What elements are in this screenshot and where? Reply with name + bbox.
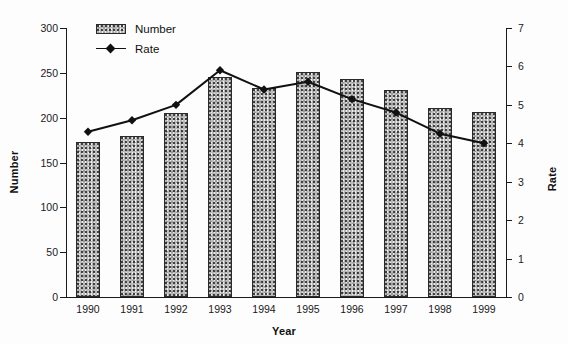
rate-marker-1991	[128, 116, 136, 124]
rate-marker-1996	[348, 95, 356, 103]
y-tick-right	[506, 28, 512, 29]
y-tick-label-right: 6	[518, 61, 524, 72]
x-axis-title-year: Year	[0, 325, 568, 337]
y-tick-label-left: 200	[14, 112, 58, 123]
y-tick-right	[506, 259, 512, 260]
y-tick-right	[506, 297, 512, 298]
rate-marker-1994	[260, 85, 268, 93]
y-tick-label-right: 3	[518, 176, 524, 187]
rate-line-series	[66, 28, 506, 297]
x-tick-label-1991: 1991	[120, 303, 143, 315]
y-tick-label-left: 300	[14, 23, 58, 34]
rate-marker-1998	[436, 129, 444, 137]
axis-right-line	[506, 28, 507, 297]
y-tick-label-left: 0	[14, 292, 58, 303]
y-tick-label-left: 250	[14, 68, 58, 79]
x-tick-label-1994: 1994	[252, 303, 275, 315]
chart-figure: Number Rate 050100150200250300 01234567 …	[0, 0, 568, 344]
y-tick-right	[506, 143, 512, 144]
x-tick-label-1999: 1999	[472, 303, 495, 315]
x-tick-label-1993: 1993	[208, 303, 231, 315]
y-tick-right	[506, 220, 512, 221]
y-tick-right	[506, 105, 512, 106]
x-tick-label-1997: 1997	[384, 303, 407, 315]
x-tick-label-1996: 1996	[340, 303, 363, 315]
y-tick-right	[506, 182, 512, 183]
rate-marker-1995	[304, 78, 312, 86]
rate-marker-1997	[392, 108, 400, 116]
x-tick-label-1995: 1995	[296, 303, 319, 315]
y-tick-label-left: 50	[14, 247, 58, 258]
y-tick-label-right: 2	[518, 215, 524, 226]
x-tick-label-1992: 1992	[164, 303, 187, 315]
plot-area: 050100150200250300 01234567	[66, 28, 506, 297]
y-tick-label-left: 100	[14, 202, 58, 213]
rate-line-path	[88, 70, 484, 143]
rate-marker-1999	[480, 139, 488, 147]
y-axis-title-number: Number	[8, 151, 20, 194]
x-tick-label-1998: 1998	[428, 303, 451, 315]
y-tick-label-right: 1	[518, 253, 524, 264]
y-tick-label-right: 0	[518, 292, 524, 303]
y-tick-label-right: 7	[518, 23, 524, 34]
y-axis-title-rate: Rate	[546, 167, 558, 192]
y-tick-label-left: 150	[14, 157, 58, 168]
y-tick-label-right: 4	[518, 138, 524, 149]
y-tick-right	[506, 66, 512, 67]
y-tick-left	[60, 297, 66, 298]
rate-marker-1990	[84, 128, 92, 136]
axis-bottom-line	[66, 297, 506, 298]
x-tick-label-1990: 1990	[76, 303, 99, 315]
y-tick-label-right: 5	[518, 100, 524, 111]
